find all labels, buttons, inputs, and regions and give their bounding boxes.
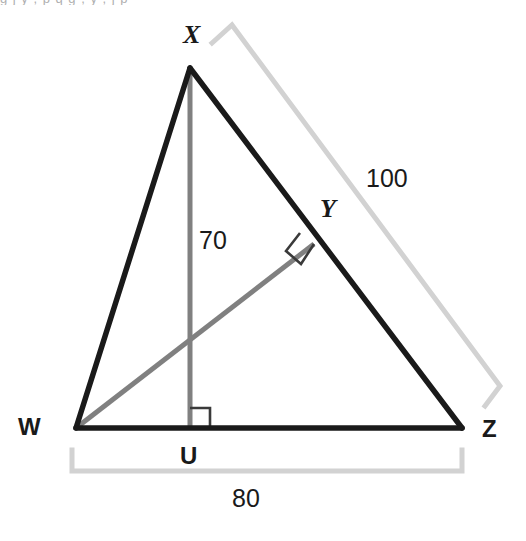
- bracket-group: [72, 25, 500, 471]
- measure-label-100: 100: [366, 166, 408, 191]
- triangle-outline-group: [76, 68, 462, 428]
- segment-XZ: [190, 68, 462, 428]
- measure-label-80: 80: [232, 486, 260, 511]
- triangle-figure: [0, 0, 526, 541]
- vertex-label-Y: Y: [320, 196, 336, 222]
- diagram-canvas: g j y , p q g , y , j p: [0, 0, 526, 541]
- vertex-label-W: W: [18, 415, 41, 439]
- segment-WX: [76, 68, 190, 428]
- right-angle-group: [190, 233, 314, 428]
- vertex-label-Z: Z: [482, 417, 497, 441]
- vertex-label-X: X: [183, 22, 200, 48]
- measure-label-70: 70: [199, 228, 227, 253]
- bracket-xz-100: [212, 25, 500, 406]
- segment-WY: [76, 244, 314, 428]
- right-angle-at-U: [190, 408, 210, 428]
- cevian-group: [76, 68, 314, 428]
- vertex-label-U: U: [180, 444, 197, 468]
- bracket-wz-80: [72, 450, 462, 471]
